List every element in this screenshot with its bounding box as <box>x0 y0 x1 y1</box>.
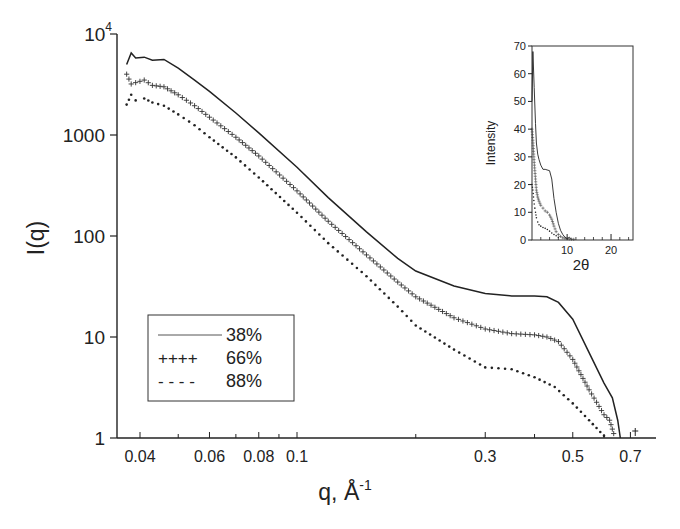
legend-label: 88% <box>226 371 262 391</box>
x-tick-label: 0.06 <box>194 448 225 465</box>
inset-x-tick-label: 10 <box>561 244 573 256</box>
inset-y-tick-label: 50 <box>514 95 526 107</box>
x-tick-label: 0.5 <box>562 448 584 465</box>
inset-plot: 0102030405060701020 Intensity 2θ <box>484 40 633 273</box>
x-tick-label: 0.04 <box>124 448 155 465</box>
legend-marker: ++++ <box>158 349 198 368</box>
inset-y-axis-label: Intensity <box>484 121 498 166</box>
y-tick-label: 1000 <box>63 125 105 146</box>
inset-y-tick-label: 40 <box>514 123 526 135</box>
inset-y-tick-label: 10 <box>514 206 526 218</box>
y-axis-ticks: 1101001000104 <box>63 20 117 449</box>
y-tick-label: 1 <box>94 428 105 449</box>
x-tick-label: 0.1 <box>286 448 308 465</box>
inset-y-tick-label: 70 <box>514 40 526 52</box>
inset-y-tick-label: 60 <box>514 68 526 80</box>
x-axis-ticks: 0.040.060.080.10.30.50.7 <box>124 432 641 465</box>
y-tick-label: 100 <box>73 226 105 247</box>
inset-y-tick-label: 30 <box>514 151 526 163</box>
x-tick-label: 0.7 <box>619 448 641 465</box>
legend-marker: - - - - <box>158 372 195 391</box>
x-tick-label: 0.08 <box>243 448 274 465</box>
legend-label: 66% <box>226 348 262 368</box>
inset-x-axis-label: 2θ <box>573 256 590 273</box>
x-axis-label: q, Å-1 <box>318 477 372 505</box>
saxs-chart-figure: 0.040.060.080.10.30.50.7 1101001000104 I… <box>0 0 680 529</box>
legend: 38%++++66%- - - -88% <box>148 315 294 401</box>
y-tick-label: 104 <box>84 20 112 45</box>
y-tick-label: 10 <box>84 327 105 348</box>
inset-y-tick-label: 0 <box>520 234 526 246</box>
inset-x-tick-label: 20 <box>605 244 617 256</box>
inset-y-tick-label: 20 <box>514 179 526 191</box>
legend-label: 38% <box>226 325 262 345</box>
x-tick-label: 0.3 <box>474 448 496 465</box>
y-axis-label: I(q) <box>23 221 49 256</box>
